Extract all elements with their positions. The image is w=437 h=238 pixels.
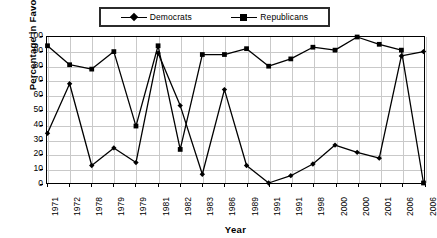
data-point-square (244, 46, 249, 51)
x-tick-mark (47, 184, 48, 187)
x-tick-mark (135, 184, 136, 187)
x-tick-label: 1986 (228, 197, 237, 216)
data-point-square (222, 52, 227, 57)
y-tick-mark (40, 154, 43, 155)
x-tick-mark (91, 184, 92, 187)
y-tick-mark (40, 125, 43, 126)
data-point-diamond (288, 173, 293, 178)
x-tick-label: 1983 (206, 197, 215, 216)
x-tick-mark (69, 184, 70, 187)
x-tick-label: 1991 (295, 197, 304, 216)
diamond-marker-icon (130, 13, 138, 21)
x-axis-ticks: 1971197219781979197919811982198319861989… (46, 184, 425, 224)
data-point-diamond (354, 150, 359, 155)
data-point-diamond (178, 103, 183, 108)
x-tick-mark (425, 184, 426, 187)
data-point-square (67, 62, 72, 67)
chart-legend: Democrats Republicans (99, 7, 330, 27)
data-point-square (111, 49, 116, 54)
x-tick-mark (336, 184, 337, 187)
x-tick-mark (180, 184, 181, 187)
x-tick-label: 2001 (384, 197, 393, 216)
x-tick-mark (313, 184, 314, 187)
data-point-square (89, 67, 94, 72)
x-tick-label: 1979 (117, 197, 126, 216)
gridline-vertical (426, 37, 427, 183)
x-tick-mark (380, 184, 381, 187)
x-tick-mark (402, 184, 403, 187)
data-point-square (266, 64, 271, 69)
x-tick-label: 1998 (317, 197, 326, 216)
series-line (47, 52, 423, 183)
legend-label-republicans: Republicans (260, 12, 308, 22)
x-tick-mark (291, 184, 292, 187)
y-tick-mark (40, 140, 43, 141)
x-tick-label: 2000 (362, 197, 371, 216)
x-axis-title: Year (46, 224, 425, 235)
y-tick-mark (40, 184, 43, 185)
legend-line-republicans (231, 13, 257, 22)
y-tick-mark (40, 36, 43, 37)
data-point-square (377, 42, 382, 47)
x-tick-label: 1978 (95, 197, 104, 216)
x-tick-label: 1989 (251, 197, 260, 216)
data-point-square (288, 57, 293, 62)
data-point-diamond (377, 156, 382, 161)
data-point-square (333, 48, 338, 53)
y-tick-mark (40, 169, 43, 170)
data-point-square (156, 43, 161, 48)
series-layer (47, 37, 424, 183)
data-point-diamond (45, 131, 50, 136)
x-tick-mark (224, 184, 225, 187)
legend-entry-democrats: Democrats (121, 12, 192, 22)
y-axis-ticks: 0102030405060708090100 (16, 36, 43, 184)
legend-label-democrats: Democrats (150, 12, 192, 22)
data-point-diamond (200, 172, 205, 177)
data-point-square (134, 124, 139, 129)
x-tick-label: 1979 (139, 197, 148, 216)
line-chart: Democrats Republicans Percentage in Favo… (0, 0, 437, 238)
x-tick-label: 1972 (73, 197, 82, 216)
x-tick-label: 2006 (429, 197, 437, 216)
y-tick-mark (40, 110, 43, 111)
data-point-square (311, 45, 316, 50)
y-tick-mark (40, 66, 43, 67)
legend-entry-republicans: Republicans (231, 12, 308, 22)
data-point-square (399, 48, 404, 53)
series-democrats (45, 49, 426, 186)
x-tick-label: 2000 (340, 197, 349, 216)
x-tick-label: 1991 (273, 197, 282, 216)
x-tick-mark (113, 184, 114, 187)
legend-line-democrats (121, 13, 147, 22)
x-tick-mark (202, 184, 203, 187)
series-line (47, 37, 423, 183)
y-tick-mark (40, 95, 43, 96)
y-tick-mark (40, 51, 43, 52)
x-tick-label: 2006 (406, 197, 415, 216)
data-point-square (45, 43, 50, 48)
x-tick-label: 1982 (184, 197, 193, 216)
x-tick-mark (269, 184, 270, 187)
plot-area (46, 36, 425, 184)
x-tick-mark (158, 184, 159, 187)
x-tick-mark (247, 184, 248, 187)
x-tick-label: 1981 (162, 197, 171, 216)
data-point-square (200, 52, 205, 57)
data-point-square (355, 35, 360, 40)
x-tick-mark (358, 184, 359, 187)
data-point-diamond (222, 87, 227, 92)
y-tick-mark (40, 80, 43, 81)
series-republicans (45, 35, 426, 186)
data-point-square (178, 147, 183, 152)
x-tick-label: 1971 (51, 197, 60, 216)
square-marker-icon (240, 14, 247, 21)
data-point-diamond (67, 81, 72, 86)
